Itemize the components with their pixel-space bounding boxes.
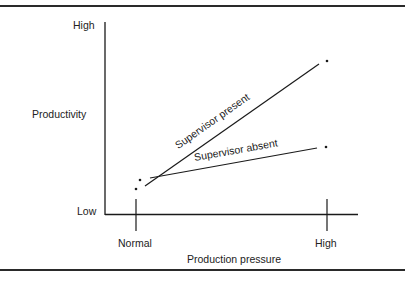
present-point-high <box>326 60 329 63</box>
present-line <box>145 64 319 186</box>
chart-canvas <box>0 0 405 284</box>
x-tick-label-normal: Normal <box>118 238 152 249</box>
x-axis-title: Production pressure <box>187 254 281 265</box>
y-tick-high: High <box>73 20 95 31</box>
present-point-normal <box>135 188 138 191</box>
y-axis-title: Productivity <box>32 109 86 120</box>
x-tick-label-high: High <box>315 238 337 249</box>
y-tick-low: Low <box>77 206 96 217</box>
absent-point-normal <box>139 179 142 182</box>
absent-point-high <box>325 146 328 149</box>
